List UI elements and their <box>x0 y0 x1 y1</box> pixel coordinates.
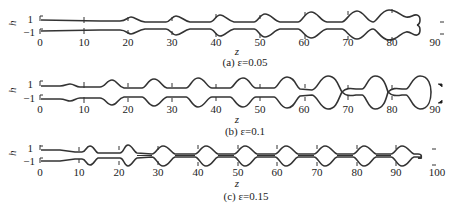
svg-text:0: 0 <box>37 166 43 178</box>
upper-interface-curve <box>41 145 421 158</box>
right-axis-markers <box>440 22 444 34</box>
lower-interface-curve <box>41 157 421 166</box>
svg-text:70: 70 <box>312 166 324 178</box>
svg-text:10: 10 <box>74 166 86 178</box>
svg-text:30: 30 <box>167 36 179 48</box>
svg-text:90: 90 <box>430 103 442 115</box>
panel-c: h 1 −1 0 10 20 30 40 50 60 70 80 90 100 … <box>6 142 446 203</box>
panel-caption: (a) ε=0.05 <box>222 56 268 69</box>
svg-text:40: 40 <box>211 36 223 48</box>
right-axis-markers <box>432 149 436 165</box>
svg-text:90: 90 <box>430 36 442 48</box>
y-tick-bottom: −1 <box>23 92 35 104</box>
y-axis-ticks <box>40 81 43 100</box>
svg-text:80: 80 <box>352 166 364 178</box>
svg-text:50: 50 <box>255 103 267 115</box>
svg-text:20: 20 <box>123 36 135 48</box>
svg-text:0: 0 <box>37 103 43 115</box>
upper-interface-curve <box>41 10 420 25</box>
right-axis-markers <box>438 84 442 103</box>
svg-text:60: 60 <box>299 36 311 48</box>
y-tick-top: 1 <box>28 13 34 25</box>
y-axis-label: h <box>6 20 18 26</box>
y-axis-label: h <box>6 150 18 156</box>
svg-text:70: 70 <box>343 103 355 115</box>
svg-text:10: 10 <box>79 36 91 48</box>
svg-text:20: 20 <box>114 166 126 178</box>
svg-text:0: 0 <box>37 36 43 48</box>
y-axis-label: h <box>6 87 18 93</box>
svg-text:80: 80 <box>387 36 399 48</box>
svg-text:100: 100 <box>429 166 446 178</box>
svg-text:30: 30 <box>153 166 165 178</box>
svg-text:80: 80 <box>387 103 399 115</box>
svg-text:30: 30 <box>167 103 179 115</box>
x-axis-ticks <box>84 82 392 103</box>
svg-text:50: 50 <box>255 36 267 48</box>
y-tick-top: 1 <box>28 142 34 154</box>
panel-caption: (c) ε=0.15 <box>223 190 269 203</box>
svg-text:70: 70 <box>343 36 355 48</box>
panel-b: h 1 −1 0 10 20 30 40 50 60 70 80 90 z (b… <box>6 76 442 138</box>
y-tick-bottom: −1 <box>23 155 35 167</box>
x-axis-label: z <box>234 113 240 125</box>
panel-caption: (b) ε=0.1 <box>225 125 265 138</box>
lower-interface-curve <box>41 92 431 109</box>
svg-text:90: 90 <box>391 166 403 178</box>
svg-text:40: 40 <box>211 103 223 115</box>
x-axis-label: z <box>234 177 240 189</box>
svg-text:20: 20 <box>123 103 135 115</box>
svg-text:10: 10 <box>79 103 91 115</box>
y-tick-bottom: −1 <box>23 26 35 38</box>
panel-a: h 1 −1 0 10 20 30 40 50 60 70 80 90 z (a… <box>6 9 444 69</box>
svg-text:60: 60 <box>272 166 284 178</box>
svg-text:60: 60 <box>299 103 311 115</box>
upper-interface-curve <box>41 76 431 92</box>
y-tick-top: 1 <box>28 78 34 90</box>
x-tick-labels: 0 10 20 30 40 50 60 70 80 90 100 <box>37 166 446 178</box>
figure-canvas: h 1 −1 0 10 20 30 40 50 60 70 80 90 z (a… <box>0 0 454 211</box>
lower-interface-curve <box>41 25 420 40</box>
svg-text:40: 40 <box>193 166 205 178</box>
